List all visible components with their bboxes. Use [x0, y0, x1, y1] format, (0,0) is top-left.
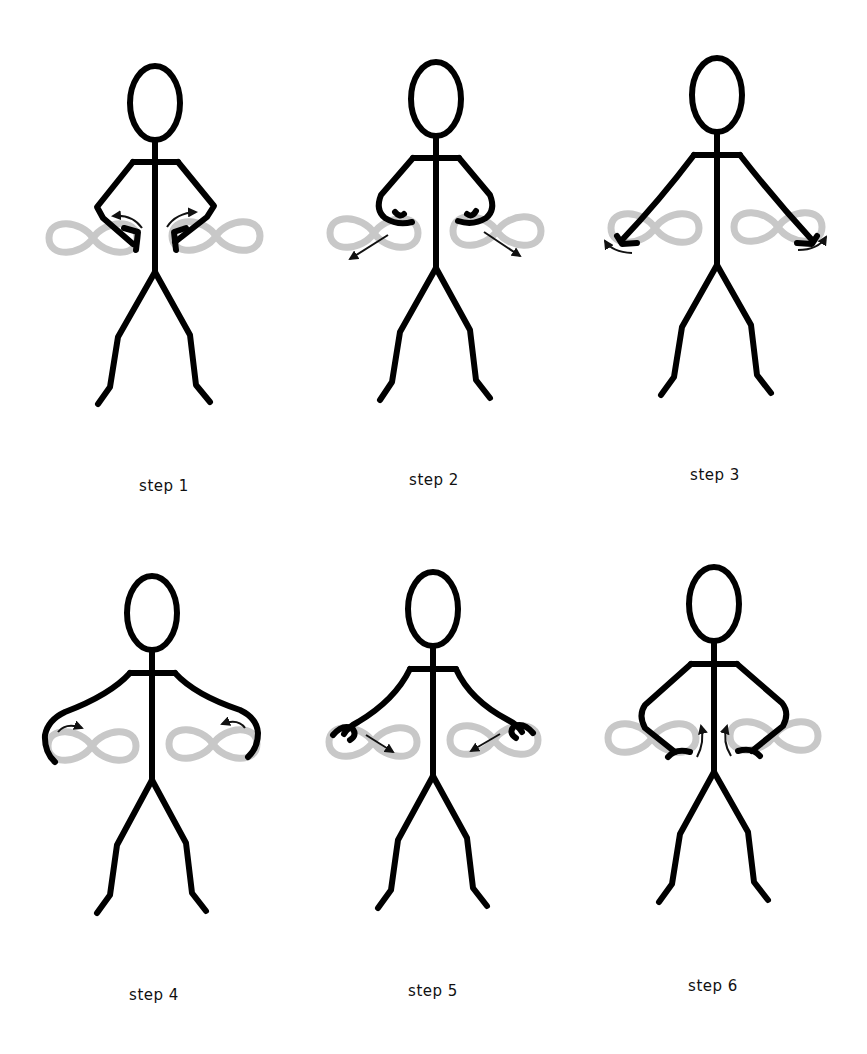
step-5-figure [329, 572, 538, 908]
step-4-figure [45, 576, 258, 913]
step-5-label: step 5 [408, 982, 458, 1000]
step-4-label: step 4 [129, 986, 179, 1004]
step-2-figure [330, 62, 541, 400]
step-1-figure [49, 66, 260, 404]
step-1-label: step 1 [139, 477, 189, 495]
step-6-figure [608, 567, 818, 902]
step-2-label: step 2 [409, 471, 459, 489]
stick-figure-diagram [0, 0, 867, 1054]
step-3-figure [605, 58, 826, 395]
step-6-label: step 6 [688, 977, 738, 995]
step-3-label: step 3 [690, 466, 740, 484]
head [130, 66, 180, 140]
diagram-canvas: step 1 step 2 step 3 step 4 step 5 step … [0, 0, 867, 1054]
